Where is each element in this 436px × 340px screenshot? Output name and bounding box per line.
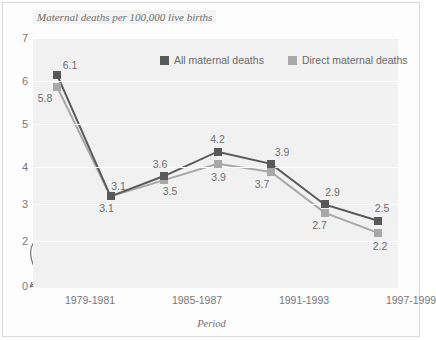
- x-axis-label: Period: [0, 318, 423, 329]
- y-axis-tick-label: 2: [2, 236, 28, 247]
- data-point-marker: [160, 172, 168, 180]
- data-point-marker: [374, 229, 382, 237]
- data-point-marker: [53, 83, 61, 91]
- gridline: [33, 81, 398, 82]
- y-axis-tick-label: 7: [2, 33, 28, 44]
- legend-item[interactable]: All maternal deaths: [160, 54, 264, 66]
- data-point-label: 3.7: [255, 178, 270, 190]
- data-point-marker: [214, 148, 222, 156]
- y-axis: 7654320: [0, 38, 28, 288]
- data-point-label: 5.8: [38, 92, 53, 104]
- x-axis-tick-label: 1997-1999: [386, 294, 436, 306]
- chart-title: Maternal deaths per 100,000 live births: [33, 10, 216, 24]
- data-point-label: 3.6: [153, 158, 168, 170]
- data-point-label: 3.9: [211, 171, 226, 183]
- legend-label: Direct maternal deaths: [302, 54, 408, 66]
- data-point-label: 3.1: [111, 180, 126, 192]
- y-axis-tick-label: 3: [2, 199, 28, 210]
- data-point-label: 2.7: [312, 219, 327, 231]
- legend-item[interactable]: Direct maternal deaths: [288, 54, 408, 66]
- data-point-marker: [374, 217, 382, 225]
- data-point-label: 2.5: [375, 202, 390, 214]
- data-point-label: 6.1: [63, 59, 78, 71]
- data-point-marker: [321, 209, 329, 217]
- plot-area: 5.83.13.53.93.72.72.26.13.13.64.23.92.92…: [33, 38, 398, 288]
- x-axis-tick-label: 1991-1993: [279, 294, 329, 306]
- gridline: [33, 204, 398, 205]
- data-point-label: 3.9: [275, 146, 290, 158]
- data-point-marker: [53, 71, 61, 79]
- data-point-label: 2.2: [373, 240, 388, 252]
- y-axis-tick-label: 5: [2, 119, 28, 130]
- data-point-label: 4.2: [210, 133, 225, 145]
- data-point-label: 3.5: [163, 185, 178, 197]
- legend-swatch-icon: [288, 56, 297, 65]
- gridline: [33, 241, 398, 242]
- legend-label: All maternal deaths: [174, 54, 264, 66]
- data-point-marker: [267, 160, 275, 168]
- data-point-label: 3.1: [99, 202, 114, 214]
- y-axis-tick-label: 4: [2, 162, 28, 173]
- data-point-marker: [267, 168, 275, 176]
- gridline: [33, 38, 398, 39]
- chart-legend: All maternal deathsDirect maternal death…: [160, 54, 408, 66]
- data-point-marker: [107, 192, 115, 200]
- y-axis-tick-label: 0: [2, 281, 28, 292]
- y-axis-tick-label: 6: [2, 76, 28, 87]
- legend-swatch-icon: [160, 56, 169, 65]
- data-point-marker: [321, 200, 329, 208]
- data-point-label: 2.9: [325, 186, 340, 198]
- x-axis-tick-label: 1979-1981: [65, 294, 115, 306]
- x-axis-tick-label: 1985-1987: [172, 294, 222, 306]
- gridline: [33, 124, 398, 125]
- data-point-marker: [214, 160, 222, 168]
